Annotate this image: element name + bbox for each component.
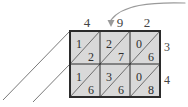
- cell-r0c2-upper-digit: 0: [133, 38, 145, 50]
- diagonal-extension-upper-line: [3, 31, 70, 100]
- right-label-row-1: 4: [164, 74, 178, 86]
- cell-r1c1-upper-digit: 3: [103, 71, 115, 83]
- cell-r1c2-upper-digit: 0: [133, 71, 145, 83]
- extension-lines-group: [3, 31, 70, 102]
- cell-r1c0-upper-digit: 1: [73, 71, 85, 83]
- top-label-col-2: 2: [137, 16, 157, 29]
- cell-r0c0-lower-digit: 2: [85, 51, 97, 63]
- cell-r1c1-lower-digit: 6: [115, 84, 127, 96]
- cell-r0c1-upper-digit: 2: [103, 38, 115, 50]
- cell-r0c1-lower-digit: 7: [115, 51, 127, 63]
- cell-r1c0-lower-digit: 6: [85, 84, 97, 96]
- right-label-row-0: 3: [164, 41, 178, 53]
- cell-r0c2-lower-digit: 6: [145, 51, 157, 63]
- lattice-diagram-canvas: 4 9 2 3 4 1 2 2 7 0 6 1 6 3 6 0 8: [0, 0, 188, 107]
- cell-r1c2-lower-digit: 8: [145, 84, 157, 96]
- cell-r0c0-upper-digit: 1: [73, 38, 85, 50]
- diagonal-extension-lower-line: [33, 64, 70, 102]
- top-label-col-1: 9: [110, 16, 130, 29]
- top-label-col-0: 4: [77, 16, 97, 29]
